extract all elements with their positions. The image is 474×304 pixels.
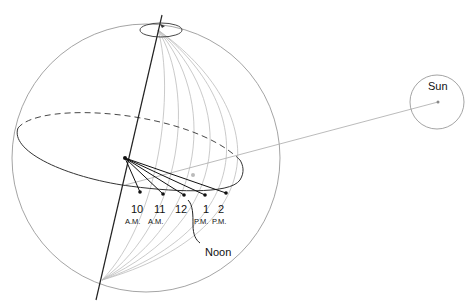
earth-rotation-diagram: Sun 10 A.M. 11 A.M. 12 1 P.M. 2 P.M. Noo… [0, 0, 474, 304]
ray-marker [191, 173, 195, 177]
noon-label: Noon [205, 246, 231, 258]
hour-lines [125, 158, 226, 195]
hour-2-period: P.M. [212, 217, 226, 226]
hour-2-label: 2 [218, 203, 224, 215]
hour-10-period: A.M. [125, 217, 140, 226]
earth-sphere [12, 24, 280, 292]
sun-center-dot [437, 101, 440, 104]
hour-points [138, 190, 228, 197]
sun-label: Sun [428, 80, 448, 92]
hour-1-period: P.M. [194, 217, 208, 226]
hour-12-label: 12 [175, 203, 187, 215]
hour-11-label: 11 [154, 203, 165, 215]
equator-back [18, 113, 240, 160]
hour-10-label: 10 [131, 203, 143, 215]
hour-1-label: 1 [203, 203, 209, 215]
meridian-lines [102, 30, 238, 280]
hour-11-period: A.M. [148, 217, 163, 226]
sun-ray [125, 102, 438, 185]
earth-center [123, 156, 127, 160]
